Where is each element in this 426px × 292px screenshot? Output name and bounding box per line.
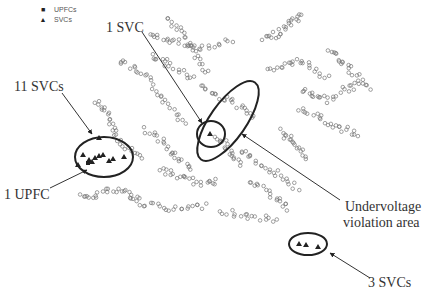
bus-marker bbox=[220, 212, 224, 216]
network-map bbox=[0, 0, 426, 292]
legend: ■ UPFCs ▲ SVCs bbox=[38, 4, 77, 24]
bus-marker bbox=[150, 87, 154, 91]
bus-marker bbox=[169, 169, 173, 173]
bus-marker bbox=[193, 56, 197, 60]
bus-marker bbox=[97, 103, 101, 107]
bus-marker bbox=[174, 205, 178, 209]
label-1-upfc: 1 UPFC bbox=[4, 187, 50, 202]
bus-marker bbox=[192, 183, 196, 187]
bus-marker bbox=[168, 106, 172, 110]
bus-marker bbox=[277, 27, 281, 31]
bus-marker bbox=[156, 93, 160, 97]
bus-marker bbox=[179, 26, 183, 30]
bus-marker bbox=[327, 74, 331, 78]
bus-marker bbox=[276, 66, 280, 70]
bus-marker bbox=[171, 67, 175, 71]
bus-marker bbox=[340, 130, 344, 134]
bus-marker bbox=[295, 57, 299, 61]
bus-marker bbox=[151, 52, 155, 56]
bus-marker bbox=[182, 68, 186, 72]
bus-marker bbox=[175, 24, 179, 28]
arrow-3-svcs bbox=[330, 253, 370, 278]
triangle-marker-icon: ▲ bbox=[38, 16, 48, 23]
bus-marker bbox=[290, 134, 294, 138]
bus-marker bbox=[323, 76, 327, 80]
bus-marker bbox=[148, 132, 152, 136]
bus-marker bbox=[347, 71, 351, 75]
bus-marker bbox=[244, 149, 248, 153]
legend-label-svcs: SVCs bbox=[54, 16, 72, 23]
square-marker-icon: ■ bbox=[38, 6, 48, 13]
arrow-undervoltage bbox=[242, 134, 340, 200]
bus-marker bbox=[117, 187, 121, 191]
bus-marker bbox=[200, 44, 204, 48]
bus-marker bbox=[177, 71, 181, 75]
label-11-svcs: 11 SVCs bbox=[14, 79, 64, 94]
bus-marker bbox=[352, 129, 356, 133]
bus-marker bbox=[304, 157, 308, 161]
bus-marker bbox=[298, 188, 302, 192]
bus-marker bbox=[188, 177, 192, 181]
three-svcs-ellipse bbox=[289, 233, 327, 255]
bus-marker bbox=[195, 180, 199, 184]
arrow-11-svcs bbox=[62, 93, 92, 134]
bus-marker bbox=[95, 191, 99, 195]
bus-marker bbox=[260, 38, 264, 42]
bus-marker bbox=[284, 28, 288, 32]
bus-marker bbox=[268, 67, 272, 71]
bus-marker bbox=[173, 156, 177, 160]
bus-marker bbox=[313, 70, 317, 74]
bus-marker bbox=[356, 134, 360, 138]
bus-marker bbox=[281, 178, 285, 182]
bus-marker bbox=[213, 45, 217, 49]
bus-marker bbox=[187, 205, 191, 209]
bus-marker bbox=[369, 88, 373, 92]
bus-marker bbox=[285, 209, 289, 213]
bus-marker bbox=[199, 57, 203, 61]
bus-marker bbox=[308, 66, 312, 70]
bus-marker bbox=[246, 217, 250, 221]
bus-marker bbox=[191, 204, 195, 208]
bus-marker bbox=[140, 157, 144, 161]
bus-marker bbox=[179, 175, 183, 179]
bus-marker bbox=[156, 140, 160, 144]
bus-marker bbox=[312, 114, 316, 118]
bus-marker bbox=[283, 62, 287, 66]
bus-marker bbox=[361, 82, 365, 86]
bus-marker bbox=[170, 20, 174, 24]
legend-item-svcs: ▲ SVCs bbox=[38, 14, 77, 24]
bus-marker bbox=[271, 30, 275, 34]
label-1-svc: 1 SVC bbox=[106, 20, 144, 35]
bus-marker bbox=[108, 122, 112, 126]
bus-marker bbox=[111, 122, 115, 126]
bus-marker bbox=[143, 131, 147, 135]
bus-marker bbox=[239, 215, 243, 219]
bus-marker bbox=[199, 184, 203, 188]
bus-marker bbox=[93, 101, 97, 105]
bus-marker bbox=[118, 143, 122, 147]
bus-marker bbox=[316, 112, 320, 116]
bus-marker bbox=[158, 168, 162, 172]
bus-marker bbox=[176, 118, 180, 122]
bus-marker bbox=[279, 174, 283, 178]
bus-marker bbox=[262, 184, 266, 188]
bus-marker bbox=[166, 102, 170, 106]
bus-marker bbox=[199, 180, 203, 184]
bus-marker bbox=[238, 164, 242, 168]
bus-marker bbox=[275, 218, 279, 222]
bus-marker bbox=[231, 208, 235, 212]
bus-marker bbox=[163, 98, 167, 102]
bus-marker bbox=[123, 147, 127, 151]
bus-marker bbox=[308, 92, 312, 96]
bus-marker bbox=[184, 122, 188, 126]
bus-marker bbox=[281, 205, 285, 209]
bus-marker bbox=[142, 125, 146, 129]
bus-marker bbox=[291, 187, 295, 191]
bus-marker bbox=[361, 78, 365, 82]
bus-marker bbox=[225, 139, 229, 143]
bus-marker bbox=[97, 99, 101, 103]
bus-marker bbox=[353, 81, 357, 85]
bus-marker bbox=[175, 28, 179, 32]
label-undervoltage: Undervoltage bbox=[345, 199, 421, 214]
bus-marker bbox=[177, 38, 181, 42]
